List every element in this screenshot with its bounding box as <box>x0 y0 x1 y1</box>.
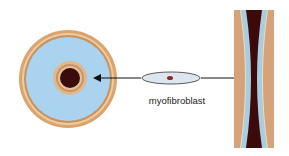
arrow-left <box>93 74 141 82</box>
diagram-canvas <box>0 0 289 156</box>
longitudinal-section <box>234 10 274 148</box>
myofibroblast-label: myofibroblast <box>142 95 212 106</box>
cross-section <box>19 30 117 128</box>
myofibroblast-cell <box>142 72 200 84</box>
